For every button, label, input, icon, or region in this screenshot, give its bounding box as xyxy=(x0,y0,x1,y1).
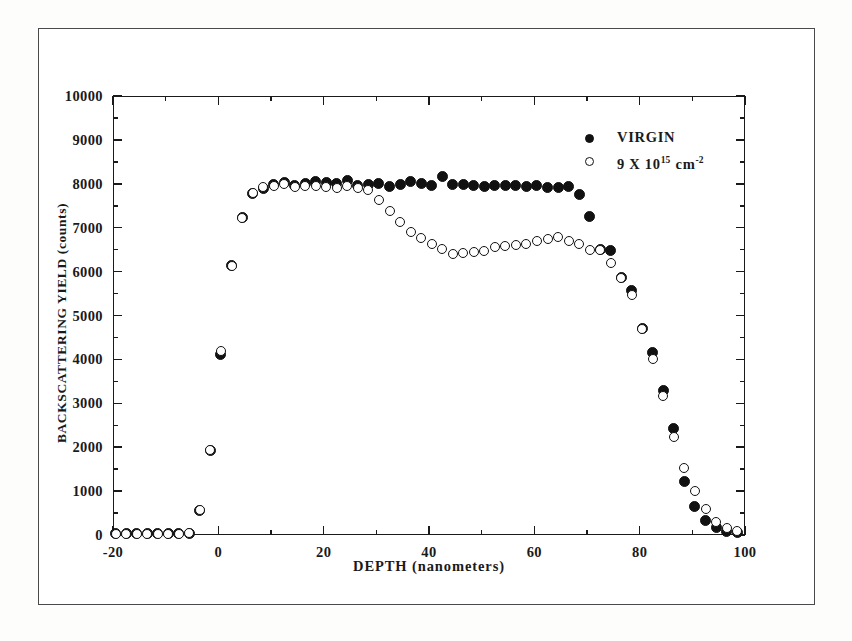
data-point xyxy=(669,432,679,442)
x-axis-tick xyxy=(428,526,430,535)
data-point xyxy=(574,189,585,200)
y-axis-tick xyxy=(113,512,118,514)
legend-label-implanted-unit: cm xyxy=(676,156,696,172)
y-axis-tick-label: 2000 xyxy=(3,439,103,456)
data-point xyxy=(121,529,131,539)
data-point xyxy=(300,181,310,191)
legend-label-implanted-base: 9 X 10 xyxy=(617,156,661,172)
x-axis-tick xyxy=(323,526,325,535)
y-axis-tick xyxy=(113,139,122,141)
data-point xyxy=(342,181,352,191)
y-axis-tick-label: 10000 xyxy=(3,88,103,105)
data-point xyxy=(374,195,384,205)
y-axis-tick-label: 6000 xyxy=(3,263,103,280)
y-axis-tick xyxy=(736,183,745,185)
y-axis-tick-label: 0 xyxy=(3,527,103,544)
data-point xyxy=(385,206,395,216)
data-point xyxy=(468,180,479,191)
data-point xyxy=(479,181,490,192)
y-axis-tick xyxy=(740,205,745,207)
y-axis-tick xyxy=(740,381,745,383)
x-axis-tick xyxy=(586,530,588,535)
data-point xyxy=(658,391,668,401)
x-axis-tick xyxy=(323,96,325,105)
y-axis-tick xyxy=(113,381,118,383)
y-axis-tick xyxy=(113,468,118,470)
open-circle-icon xyxy=(585,157,594,166)
data-point xyxy=(605,245,616,256)
y-axis-tick xyxy=(113,490,122,492)
data-point xyxy=(500,241,510,251)
data-point xyxy=(111,529,121,539)
legend-label-virgin: VIRGIN xyxy=(617,126,675,149)
data-point xyxy=(500,180,511,191)
data-point xyxy=(416,233,426,243)
data-point xyxy=(237,213,247,223)
data-point xyxy=(426,180,437,191)
data-point xyxy=(532,236,542,246)
data-point xyxy=(395,217,405,227)
y-axis-tick-label: 1000 xyxy=(3,483,103,500)
x-axis-tick xyxy=(270,96,272,101)
data-point xyxy=(384,181,395,192)
y-axis-tick-label: 9000 xyxy=(3,131,103,148)
y-axis-tick-label: 7000 xyxy=(3,219,103,236)
data-point xyxy=(521,239,531,249)
data-point xyxy=(479,246,489,256)
data-point xyxy=(269,181,279,191)
data-point xyxy=(311,181,321,191)
data-point xyxy=(458,248,468,258)
y-axis-tick xyxy=(113,227,122,229)
data-point xyxy=(637,324,647,334)
y-axis-tick xyxy=(113,293,118,295)
data-point xyxy=(531,180,542,191)
data-point xyxy=(405,176,416,187)
y-axis-tick xyxy=(740,468,745,470)
y-axis-tick xyxy=(740,425,745,427)
data-point xyxy=(447,179,458,190)
data-point xyxy=(543,234,553,244)
data-point xyxy=(574,239,584,249)
data-point xyxy=(416,178,427,189)
data-point xyxy=(490,242,500,252)
y-axis-tick xyxy=(740,293,745,295)
data-point xyxy=(521,181,532,192)
data-point xyxy=(563,181,574,192)
y-axis-tick xyxy=(113,337,118,339)
data-point xyxy=(564,236,574,246)
data-point xyxy=(553,182,564,193)
x-axis-tick xyxy=(639,526,641,535)
data-point xyxy=(153,529,163,539)
data-point xyxy=(584,211,595,222)
x-axis-tick xyxy=(586,96,588,101)
chart-legend: VIRGIN 9 X 1015cm-2 xyxy=(585,126,795,172)
legend-item-implanted: 9 X 1015cm-2 xyxy=(585,149,795,172)
page-background: 0100020003000400050006000700080009000100… xyxy=(0,0,852,641)
y-axis-tick xyxy=(113,315,122,317)
data-point xyxy=(722,523,732,533)
y-axis-tick xyxy=(736,315,745,317)
legend-item-virgin: VIRGIN xyxy=(585,126,795,149)
data-point xyxy=(689,501,700,512)
data-point xyxy=(353,183,363,193)
x-axis-tick xyxy=(481,530,483,535)
x-axis-tick xyxy=(744,526,746,535)
y-axis-tick xyxy=(740,249,745,251)
data-point xyxy=(627,290,637,300)
x-axis-tick xyxy=(639,96,641,105)
x-axis-tick xyxy=(112,96,114,105)
data-point xyxy=(585,245,595,255)
x-axis-tick xyxy=(692,96,694,101)
y-axis-tick xyxy=(113,359,122,361)
data-point xyxy=(469,247,479,257)
y-axis-tick xyxy=(736,271,745,273)
data-point xyxy=(679,463,689,473)
data-point xyxy=(363,185,373,195)
data-point xyxy=(648,354,658,364)
filled-circle-icon xyxy=(585,134,594,143)
rbs-scatter-chart: 0100020003000400050006000700080009000100… xyxy=(0,0,852,641)
data-point xyxy=(142,529,152,539)
data-point xyxy=(406,227,416,237)
data-point xyxy=(437,171,448,182)
y-axis-tick xyxy=(740,337,745,339)
